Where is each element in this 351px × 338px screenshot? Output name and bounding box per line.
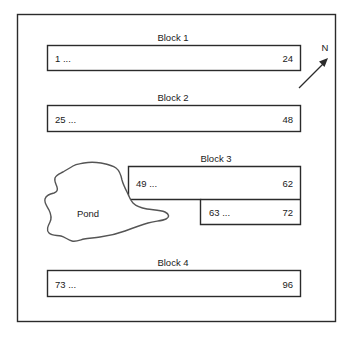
block-4-box xyxy=(48,271,301,297)
block-3-label: Block 3 xyxy=(200,153,231,164)
north-label: N xyxy=(322,42,329,53)
block-4-label: Block 4 xyxy=(157,257,188,268)
north-arrow-icon xyxy=(299,62,325,88)
block-2-box xyxy=(48,106,301,132)
block-3-lower-range-end: 72 xyxy=(282,207,293,218)
block-4-range-start: 73 ... xyxy=(55,279,76,290)
block-1-label: Block 1 xyxy=(157,32,188,43)
block-1-box xyxy=(48,46,301,71)
block-2-label: Block 2 xyxy=(157,92,188,103)
block-2-range-end: 48 xyxy=(282,114,293,125)
block-3-lower-range-start: 63 ... xyxy=(209,207,230,218)
block-1-range-end: 24 xyxy=(282,53,293,64)
block-3-upper-range-start: 49 ... xyxy=(136,178,157,189)
pond-label: Pond xyxy=(77,208,99,219)
block-1-range-start: 1 ... xyxy=(55,53,71,64)
block-4-range-end: 96 xyxy=(282,279,293,290)
block-2-range-start: 25 ... xyxy=(55,114,76,125)
north-arrowhead-icon xyxy=(319,58,328,67)
diagram-canvas: Block 1 1 ... 24 N Block 2 25 ... 48 Blo… xyxy=(0,0,351,338)
block-3-upper-range-end: 62 xyxy=(282,178,293,189)
field-plan-diagram: Block 1 1 ... 24 N Block 2 25 ... 48 Blo… xyxy=(0,0,351,338)
